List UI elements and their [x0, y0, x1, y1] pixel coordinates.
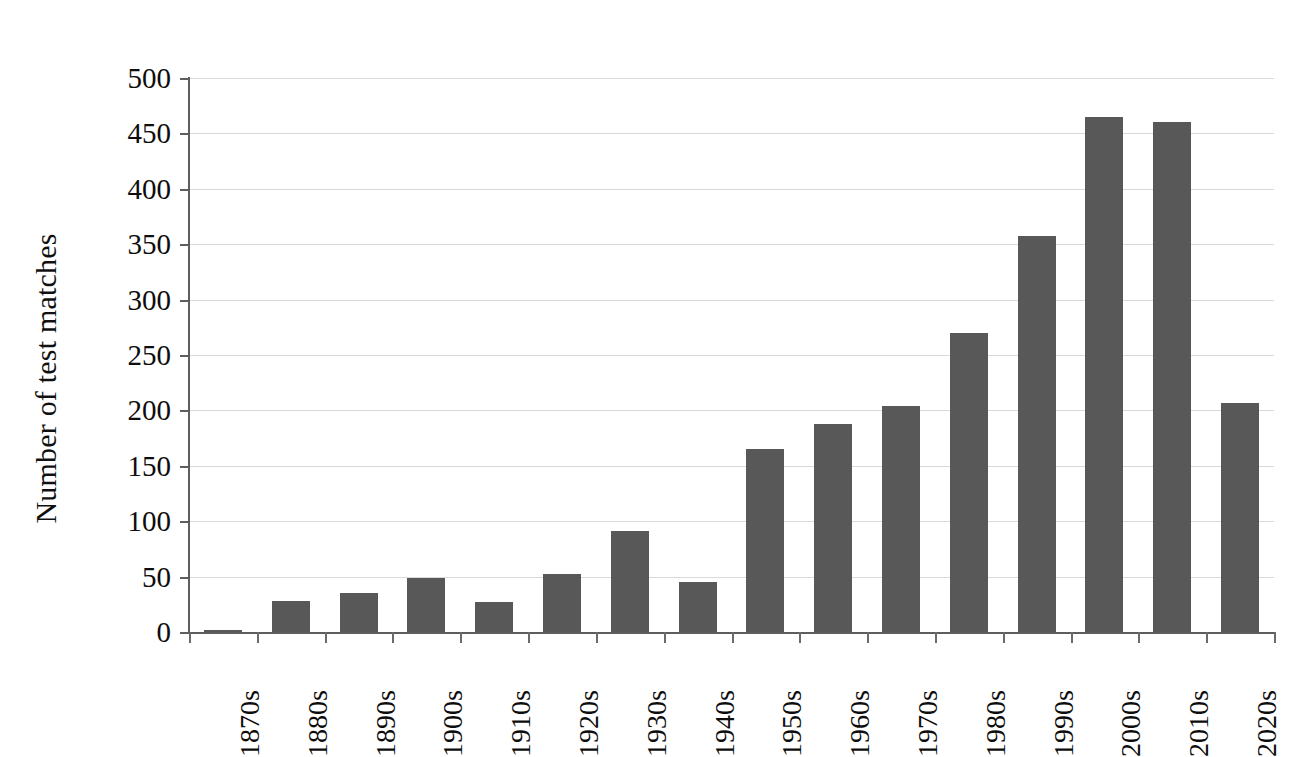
x-axis-labels: 1870s1880s1890s1900s1910s1920s1930s1940s…: [189, 645, 1274, 757]
x-axis-tick: [257, 632, 259, 643]
bar: [475, 602, 513, 632]
bar: [814, 424, 852, 632]
bar: [1085, 117, 1123, 632]
y-axis-tick-label: 500: [35, 64, 185, 93]
bar-slot: [460, 78, 528, 632]
bar: [950, 333, 988, 632]
bar: [882, 406, 920, 632]
bar-slot: [1071, 78, 1139, 632]
bar: [1221, 403, 1259, 632]
x-axis-tick: [596, 632, 598, 643]
x-axis-tick-label: 1960s: [845, 645, 875, 757]
y-axis-tick-label: 400: [35, 174, 185, 203]
x-axis-tick-label: 1970s: [913, 645, 943, 757]
x-axis-tick: [325, 632, 327, 643]
x-axis-tick: [1071, 632, 1073, 643]
x-axis-tick-label: 1880s: [303, 645, 333, 757]
bar-slot: [664, 78, 732, 632]
bar-series: [189, 78, 1274, 632]
y-axis-tick-label: 450: [35, 119, 185, 148]
bar-slot: [1206, 78, 1274, 632]
x-axis-tick-label: 1980s: [981, 645, 1011, 757]
x-axis-tick: [1206, 632, 1208, 643]
bar-slot: [1003, 78, 1071, 632]
x-axis-tick-label: 1990s: [1049, 645, 1079, 757]
x-axis-tick-label: 1870s: [235, 645, 265, 757]
x-axis-tick: [664, 632, 666, 643]
bar-slot: [596, 78, 664, 632]
y-axis-tick-label: 250: [35, 341, 185, 370]
x-axis-tick-label: 1940s: [710, 645, 740, 757]
x-axis-ticks: [189, 632, 1274, 644]
x-axis-tick: [732, 632, 734, 643]
bar-slot: [325, 78, 393, 632]
bar: [543, 574, 581, 632]
y-axis-tick-label: 350: [35, 230, 185, 259]
y-axis-tick-label: 150: [35, 451, 185, 480]
x-axis-tick-label: 1920s: [574, 645, 604, 757]
bar-slot: [732, 78, 800, 632]
x-axis-tick: [528, 632, 530, 643]
x-axis-tick-label: 1950s: [777, 645, 807, 757]
y-axis-tick-label: 0: [35, 618, 185, 647]
bar-slot: [799, 78, 867, 632]
bar: [679, 582, 717, 632]
bar-slot: [1138, 78, 1206, 632]
bar: [1018, 236, 1056, 632]
x-axis-tick: [392, 632, 394, 643]
x-axis-tick: [867, 632, 869, 643]
x-axis-tick-label: 1890s: [371, 645, 401, 757]
x-axis-tick: [1274, 632, 1276, 643]
bar-chart: Number of test matches 1870s1880s1890s19…: [0, 0, 1294, 757]
x-axis-tick: [799, 632, 801, 643]
x-axis-tick-label: 2020s: [1252, 645, 1282, 757]
x-axis-tick: [460, 632, 462, 643]
bar-slot: [392, 78, 460, 632]
y-axis-tick-label: 100: [35, 507, 185, 536]
bar: [407, 578, 445, 632]
x-axis-tick: [1138, 632, 1140, 643]
bar-slot: [867, 78, 935, 632]
bar: [611, 531, 649, 632]
y-axis-tick-label: 50: [35, 562, 185, 591]
y-axis-tick-label: 300: [35, 285, 185, 314]
y-axis-tick-label: 200: [35, 396, 185, 425]
x-axis-tick-label: 1930s: [642, 645, 672, 757]
x-axis-tick: [1003, 632, 1005, 643]
bar-slot: [257, 78, 325, 632]
x-axis-tick-label: 2000s: [1116, 645, 1146, 757]
x-axis-tick: [935, 632, 937, 643]
bar: [340, 593, 378, 632]
bar: [746, 449, 784, 632]
bar-slot: [528, 78, 596, 632]
x-axis-tick-label: 1910s: [506, 645, 536, 757]
x-axis-tick-label: 2010s: [1184, 645, 1214, 757]
bar-slot: [189, 78, 257, 632]
x-axis-tick-label: 1900s: [438, 645, 468, 757]
bar: [272, 601, 310, 632]
bar: [1153, 122, 1191, 632]
bar-slot: [935, 78, 1003, 632]
